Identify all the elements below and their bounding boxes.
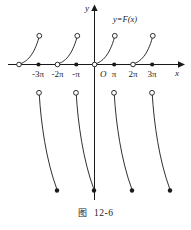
x-tick-label-neg-3pi: -3π (32, 69, 44, 79)
open-point-origin (92, 62, 97, 67)
y-axis-label: y (84, 3, 89, 13)
filled-point-lower-bottom-4 (168, 188, 172, 192)
lower-branch-2-curve (76, 95, 94, 189)
open-point-lower-top-1 (37, 90, 42, 95)
upper-branches-group (20, 38, 153, 64)
open-point-lower-top-3 (112, 90, 117, 95)
lower-branches-group (39, 95, 170, 189)
lower-branch-1-curve (39, 95, 57, 189)
open-point-upper-top-2 (75, 33, 80, 38)
open-point-lower-top-4 (150, 90, 155, 95)
open-point-lower-top-2 (74, 90, 79, 95)
function-graph-plot: y x y=F(x) O -3π -2π -π π 2π 3π (0, 0, 191, 230)
open-point-upper-top-3 (112, 33, 117, 38)
open-point-2pi (131, 62, 136, 67)
x-tick-label-3pi: 3π (147, 69, 157, 79)
open-point-upper-top-1 (37, 33, 42, 38)
filled-point-neg-pi (74, 62, 78, 66)
x-tick-label-2pi: 2π (128, 69, 138, 79)
filled-point-pi (112, 62, 116, 66)
filled-point-lower-bottom-3 (130, 188, 134, 192)
upper-branch-top-endpoints-group (37, 33, 155, 38)
lower-branch-3-curve (114, 95, 132, 189)
figure-caption: 图12-6 (0, 206, 191, 219)
origin-label: O (100, 69, 107, 79)
figure-caption-label: 图 (78, 206, 88, 219)
x-tick-label-pi: π (112, 69, 117, 79)
upper-branch-2-curve (58, 38, 77, 64)
x-axis-arrowhead (178, 61, 185, 67)
filled-point-neg-3pi (36, 62, 40, 66)
x-tick-label-neg-2pi: -2π (51, 69, 63, 79)
figure-caption-number: 12-6 (94, 208, 113, 218)
filled-point-lower-bottom-1 (55, 188, 59, 192)
filled-point-3pi (150, 62, 154, 66)
upper-branch-3-curve (95, 38, 114, 64)
filled-point-lower-bottom-2 (92, 188, 96, 192)
x-axis-label: x (174, 68, 179, 78)
x-tick-label-neg-pi: -π (72, 69, 80, 79)
function-label: y=F(x) (112, 14, 137, 24)
lower-branch-bottom-endpoints-group (55, 188, 172, 192)
axes-group (8, 5, 185, 201)
lower-branch-top-endpoints-group (37, 90, 155, 95)
open-point-upper-top-4 (150, 33, 155, 38)
open-point-branch1-start (17, 62, 22, 67)
lower-branch-4-curve (152, 95, 170, 189)
open-point-neg-2pi (55, 62, 60, 67)
figure-12-6: y x y=F(x) O -3π -2π -π π 2π 3π (0, 0, 191, 230)
upper-branch-1-curve (20, 38, 39, 64)
upper-branch-4-curve (133, 38, 152, 64)
y-axis-arrowhead (91, 5, 97, 12)
